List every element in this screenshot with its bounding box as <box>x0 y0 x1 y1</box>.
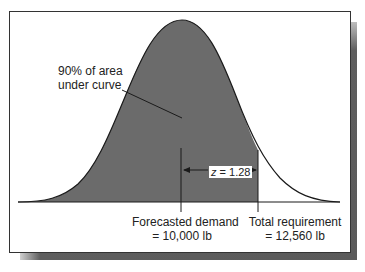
area-annotation-line-1: 90% of area <box>58 64 123 78</box>
total-label-line-2: = 12,560 lb <box>245 229 345 243</box>
forecast-label-line-2: = 10,000 lb <box>132 229 232 243</box>
z-value-label: z = 1.28 <box>209 166 252 178</box>
area-annotation: 90% of area under curve <box>58 64 123 92</box>
forecast-label-line-1: Forecasted demand <box>132 215 232 229</box>
total-requirement-label: Total requirement = 12,560 lb <box>245 215 345 243</box>
z-value: = 1.28 <box>220 166 251 178</box>
z-variable: z <box>211 166 217 178</box>
total-label-line-1: Total requirement <box>245 215 345 229</box>
forecast-demand-label: Forecasted demand = 10,000 lb <box>132 215 232 243</box>
area-annotation-line-2: under curve <box>58 78 123 92</box>
